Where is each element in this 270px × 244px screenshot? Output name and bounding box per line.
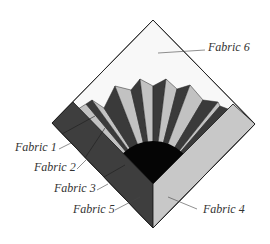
leader-line-fabric-1 — [59, 143, 71, 149]
quilt-block-diagram: Fabric 6 Fabric 1 Fabric 2 Fabric 3 Fabr… — [0, 0, 270, 244]
label-text-fabric-2: Fabric 2 — [33, 160, 76, 174]
label-text-fabric-5: Fabric 5 — [72, 202, 115, 216]
label-text-fabric-1: Fabric 1 — [14, 140, 57, 154]
label-fabric-1: Fabric 1 — [14, 140, 71, 154]
leader-line-fabric-3 — [97, 184, 108, 190]
leader-line-fabric-2 — [77, 160, 86, 169]
label-text-fabric-4: Fabric 4 — [202, 202, 245, 216]
label-text-fabric-6: Fabric 6 — [207, 40, 250, 54]
label-text-fabric-3: Fabric 3 — [53, 181, 96, 195]
label-fabric-3: Fabric 3 — [53, 181, 108, 195]
label-fabric-2: Fabric 2 — [33, 160, 86, 174]
